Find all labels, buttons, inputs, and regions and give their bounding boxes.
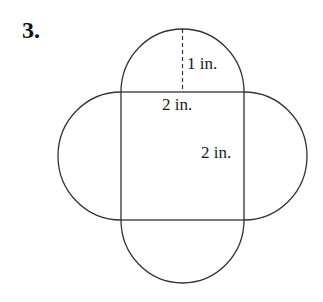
right-side-label: 2 in. — [201, 143, 231, 162]
composite-figure: 1 in. 2 in. 2 in. — [0, 0, 323, 302]
left-semicircle — [58, 92, 121, 220]
top-side-label: 2 in. — [162, 95, 192, 114]
bottom-semicircle — [121, 220, 244, 283]
right-semicircle — [244, 92, 307, 220]
radius-label: 1 in. — [187, 54, 217, 73]
